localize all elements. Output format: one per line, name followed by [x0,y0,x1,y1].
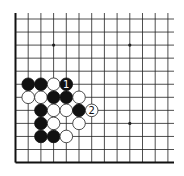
white-stone [22,91,35,104]
white-stone [73,117,86,130]
white-stone [47,117,60,130]
black-stone: 1 [60,78,73,91]
star-point-icon [128,122,131,125]
white-stone: 2 [85,104,98,117]
move-number-label: 2 [89,105,95,116]
white-stone [47,78,60,91]
go-board-diagram: 12 [0,0,184,176]
white-stone [60,104,73,117]
white-stone [35,91,48,104]
black-stone [73,104,86,117]
star-point-icon [52,44,55,47]
black-stone [35,78,48,91]
star-point-icon [128,44,131,47]
black-stone [60,91,73,104]
black-stone [35,130,48,143]
white-stone [73,91,86,104]
white-stone [47,104,60,117]
white-stone [60,130,73,143]
black-stone [47,91,60,104]
black-stone [35,117,48,130]
move-number-label: 1 [63,79,69,90]
black-stone [22,78,35,91]
black-stone [47,130,60,143]
black-stone [35,104,48,117]
